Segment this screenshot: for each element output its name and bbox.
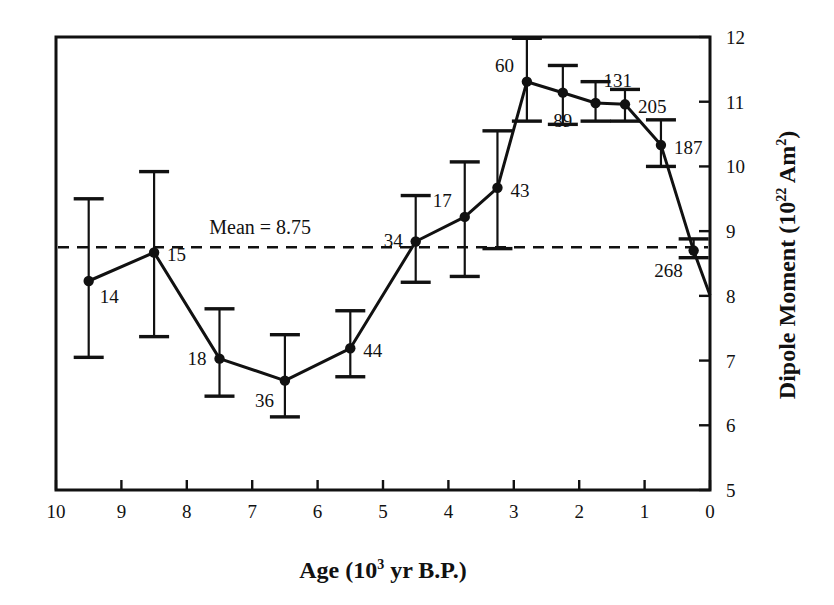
data-point-marker	[149, 247, 159, 257]
error-bars	[74, 38, 709, 417]
data-point-label: 268	[654, 260, 683, 281]
y-tick-label: 6	[726, 415, 736, 436]
data-point-marker	[656, 140, 666, 150]
data-point-marker	[411, 236, 421, 246]
data-point-marker	[522, 76, 532, 86]
y-axis-tick-labels: 56789101112	[726, 27, 745, 501]
y-axis-ticks	[699, 37, 710, 490]
data-point-marker	[345, 343, 355, 353]
x-tick-label: 6	[313, 501, 323, 522]
data-point-label: 17	[433, 190, 452, 211]
data-point-label: 205	[638, 96, 667, 117]
data-point-marker	[492, 183, 502, 193]
y-tick-label: 11	[726, 92, 744, 113]
data-point-marker	[280, 375, 290, 385]
data-point-label: 60	[495, 55, 514, 76]
data-point-marker	[590, 98, 600, 108]
data-point-label: 187	[674, 137, 703, 158]
y-tick-label: 5	[726, 480, 736, 501]
data-point-label: 14	[100, 286, 120, 307]
y-tick-label: 9	[726, 221, 736, 242]
x-tick-label: 0	[705, 501, 715, 522]
data-point-label: 34	[384, 230, 404, 251]
chart-figure: 109876543210 56789101112 141518364434174…	[0, 0, 834, 605]
x-tick-label: 3	[509, 501, 519, 522]
x-tick-label: 9	[117, 501, 127, 522]
x-tick-label: 4	[444, 501, 454, 522]
data-point-marker	[620, 99, 630, 109]
y-axis-title: Dipole Moment (1022 Am2)	[774, 131, 800, 399]
x-tick-label: 8	[182, 501, 192, 522]
data-point-label: 18	[188, 348, 207, 369]
x-axis-title: Age (103 yr B.P.)	[299, 557, 467, 583]
data-point-marker	[460, 212, 470, 222]
data-point-marker	[214, 353, 224, 363]
data-point-label: 131	[604, 70, 633, 91]
y-tick-label: 10	[726, 156, 745, 177]
x-tick-label: 2	[574, 501, 584, 522]
data-point-label: 44	[363, 340, 383, 361]
x-tick-label: 5	[378, 501, 388, 522]
data-point-label: 36	[255, 390, 274, 411]
data-point-label: 89	[553, 110, 572, 131]
data-point-label: 15	[167, 244, 186, 265]
y-tick-label: 12	[726, 27, 745, 48]
data-point-labels: 14151836443417436089131205187268	[100, 55, 703, 411]
y-tick-label: 7	[726, 351, 736, 372]
dipole-moment-line-chart: 109876543210 56789101112 141518364434174…	[0, 0, 834, 605]
y-tick-label: 8	[726, 286, 736, 307]
x-tick-label: 1	[640, 501, 650, 522]
data-point-marker	[558, 87, 568, 97]
data-point-label: 43	[510, 180, 529, 201]
x-tick-label: 10	[47, 501, 66, 522]
data-point-marker	[84, 276, 94, 286]
data-point-marker	[688, 245, 698, 255]
x-axis-tick-labels: 109876543210	[47, 501, 715, 522]
mean-annotation-label: Mean = 8.75	[209, 216, 311, 238]
x-tick-label: 7	[247, 501, 257, 522]
